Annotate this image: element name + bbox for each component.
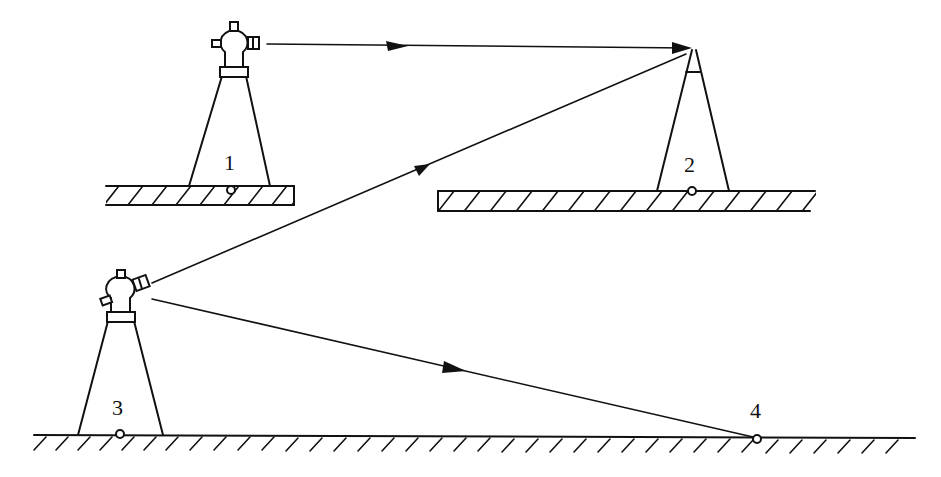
point-4-marker [753, 435, 761, 443]
point-2-marker [688, 187, 696, 195]
arrow-icon [442, 361, 466, 373]
station-1-label: 1 [224, 150, 235, 175]
point-3-marker [116, 430, 124, 438]
platform-1 [100, 182, 310, 210]
station-4-label: 4 [750, 398, 761, 423]
arrow-icon [386, 41, 408, 51]
sightline-1-to-2 [267, 41, 692, 54]
surveying-diagram: 1 2 3 4 [0, 0, 941, 477]
sightline-3-to-4 [152, 299, 753, 437]
arrow-icon [414, 164, 430, 176]
station-2-label: 2 [684, 152, 695, 177]
arrow-icon [672, 42, 692, 54]
station-3-label: 3 [112, 395, 123, 420]
ground-line [34, 435, 915, 453]
point-1-marker [227, 186, 235, 194]
platform-2 [436, 186, 822, 214]
